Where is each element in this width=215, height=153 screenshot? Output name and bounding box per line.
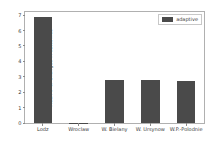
- y-tick-label: 7: [18, 13, 21, 18]
- bar-slot: [141, 12, 160, 123]
- y-tick-label: 4: [18, 59, 21, 64]
- bar-chart-figure: Mean # of Changes in outcomes 01234567 L…: [0, 0, 215, 153]
- legend-swatch: [162, 17, 173, 22]
- y-tick-label: 3: [18, 74, 21, 79]
- x-tick-label: W. Bielany: [101, 127, 127, 132]
- x-tick-label: W.P.-Polodnie: [170, 127, 203, 132]
- bar: [177, 81, 196, 123]
- y-tick-label: 2: [18, 90, 21, 95]
- bar-slot: [69, 12, 88, 123]
- bar-slot: [177, 12, 196, 123]
- plot-area: Mean # of Changes in outcomes 01234567 L…: [24, 11, 205, 124]
- y-tick-label: 0: [18, 121, 21, 126]
- x-tick-label: Wroclaw: [68, 127, 89, 132]
- y-tick-label: 6: [18, 28, 21, 33]
- bar-slot: [105, 12, 124, 123]
- legend: adaptive: [158, 14, 202, 25]
- legend-label: adaptive: [176, 17, 198, 22]
- bar: [105, 80, 124, 123]
- x-tick-label: W. Ursynow: [136, 127, 165, 132]
- bar-series-adaptive: [25, 12, 204, 123]
- y-tick-label: 5: [18, 43, 21, 48]
- bar: [34, 17, 53, 123]
- x-tick-label: Lodz: [37, 127, 49, 132]
- y-tick-label: 1: [18, 105, 21, 110]
- bar: [141, 80, 160, 123]
- bar-slot: [34, 12, 53, 123]
